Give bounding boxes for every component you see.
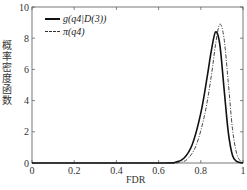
x-tick-label: 0.8 [195,165,208,176]
y-tick-label: 8 [24,33,29,44]
legend-label-pi: π(q4) [63,26,85,37]
legend: g(q4|D(3)) π(q4) [45,12,106,38]
solid-line-swatch-icon [45,18,60,20]
x-tick-label: 0.6 [152,165,165,176]
y-axis-label: 概率密度函数 [2,40,14,106]
x-tick-label: 0 [30,165,35,176]
y-tick-label: 0 [24,158,29,169]
x-tick-label: 0.2 [68,165,81,176]
x-tick-label: 0.4 [110,165,123,176]
x-axis-label: FDR [126,174,145,185]
y-tick-label: 4 [24,95,29,106]
dashdot-line-swatch-icon [45,31,60,32]
series-lines [32,24,243,163]
x-tick-label: 1 [241,165,246,176]
series-line-pi [32,24,243,163]
y-tick-label: 6 [24,64,29,75]
legend-item-pi: π(q4) [45,25,106,38]
legend-item-g: g(q4|D(3)) [45,12,106,25]
y-tick-label: 2 [24,126,29,137]
legend-label-g: g(q4|D(3)) [63,13,106,24]
y-tick-label: 10 [19,2,29,13]
series-line-g [32,32,243,163]
chart-canvas: 00.20.40.60.810246810 [0,0,247,190]
